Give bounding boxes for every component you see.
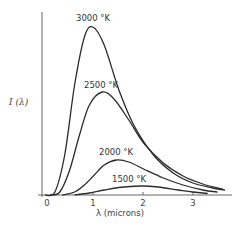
label-3000k: 3000 °K <box>76 14 110 23</box>
label-1500k: 1500 °K <box>112 175 146 184</box>
curves <box>45 27 225 196</box>
label-2000k: 2000 °K <box>99 148 133 157</box>
x-tick-label-2: 2 <box>140 199 145 208</box>
y-axis-label: I (λ) <box>9 98 28 107</box>
curve-1500k <box>75 186 208 195</box>
x-tick-label-0: 0 <box>44 199 49 208</box>
chart-canvas <box>0 0 244 228</box>
blackbody-radiation-chart: 3000 °K 2500 °K 2000 °K 1500 °K I (λ) 0 … <box>0 0 244 228</box>
curve-3000k <box>45 27 225 196</box>
x-tick-label-1: 1 <box>90 199 95 208</box>
x-tick-label-3: 3 <box>190 199 195 208</box>
label-2500k: 2500 °K <box>84 81 118 90</box>
x-axis-label: λ (microns) <box>96 209 144 218</box>
